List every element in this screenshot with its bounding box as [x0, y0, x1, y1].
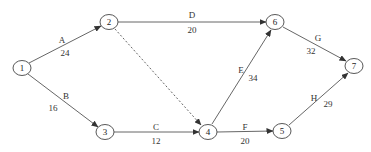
edge-E-duration: 34	[249, 74, 258, 83]
diagram-graphics	[0, 0, 371, 152]
edge-H-duration: 29	[324, 100, 333, 109]
edge-B-name: B	[63, 92, 69, 101]
edge-G-duration: 32	[307, 47, 316, 56]
edge-H-name: H	[311, 94, 318, 103]
node-6-label: 6	[273, 18, 278, 27]
node-7-label: 7	[352, 62, 357, 71]
edge-E-name: E	[238, 66, 244, 75]
edge-C-duration: 12	[152, 137, 161, 146]
edge-F-duration: 20	[241, 137, 250, 146]
edge-B-1-3	[28, 74, 98, 127]
edge-C-name: C	[153, 123, 159, 132]
edge-A-name: A	[59, 36, 66, 45]
node-1-label: 1	[20, 64, 25, 73]
edge-A-duration: 24	[61, 49, 70, 58]
dummy-edge-2-4	[115, 29, 201, 125]
edge-F-name: F	[242, 123, 247, 132]
edge-H-5-7	[289, 73, 348, 125]
network-diagram: 1 2 3 4 5 6 7 A 24 B 16 C 12 D 20 E 34 F…	[0, 0, 371, 152]
edge-D-duration: 20	[188, 26, 197, 35]
edge-B-duration: 16	[49, 104, 58, 113]
node-4-label: 4	[206, 128, 211, 137]
node-2-label: 2	[107, 18, 112, 27]
edge-G-name: G	[315, 34, 322, 43]
edge-E-4-6	[212, 30, 271, 124]
node-5-label: 5	[280, 127, 285, 136]
node-3-label: 3	[103, 128, 108, 137]
edge-D-name: D	[189, 11, 196, 20]
